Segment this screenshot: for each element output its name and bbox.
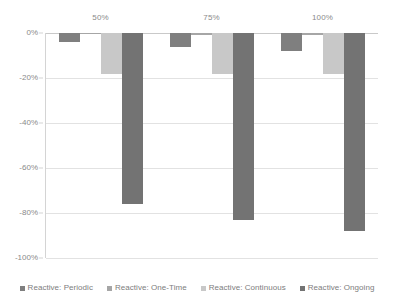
bar-slot: [212, 33, 233, 258]
bar-slot: [344, 33, 365, 258]
legend-label: Reactive: One-Time: [115, 283, 187, 293]
tick-0: [39, 33, 43, 34]
bars-layer: [46, 33, 378, 258]
bar[interactable]: [344, 33, 365, 231]
value-label-2: -40%: [19, 119, 38, 127]
bar[interactable]: [281, 33, 302, 51]
legend-label: Reactive: Ongoing: [308, 283, 375, 293]
category-label-2: 100%: [267, 10, 378, 26]
legend-swatch-icon: [201, 286, 206, 291]
legend-swatch-icon: [300, 286, 305, 291]
legend-label: Reactive: Periodic: [28, 283, 93, 293]
value-label-4: -80%: [19, 209, 38, 217]
value-label-3: -60%: [19, 164, 38, 172]
legend-swatch-icon: [20, 286, 25, 291]
bar-slot: [59, 33, 80, 258]
chart-legend: Reactive: PeriodicReactive: One-TimeReac…: [0, 280, 394, 296]
gridline-5: [46, 258, 378, 259]
legend-label: Reactive: Continuous: [209, 283, 286, 293]
tick-1: [39, 78, 43, 79]
bar-slot: [80, 33, 101, 258]
bar[interactable]: [233, 33, 254, 220]
legend-item-2[interactable]: Reactive: Continuous: [201, 283, 286, 293]
category-axis: 50%75%100%: [45, 10, 378, 26]
value-axis: 0%-20%-40%-60%-80%-100%: [0, 33, 43, 258]
bar-group-1: [157, 33, 268, 258]
category-label-0: 50%: [45, 10, 156, 26]
tick-5: [39, 258, 43, 259]
bar-slot: [281, 33, 302, 258]
bar-slot: [170, 33, 191, 258]
bar-group-0: [46, 33, 157, 258]
legend-item-0[interactable]: Reactive: Periodic: [20, 283, 93, 293]
tick-3: [39, 168, 43, 169]
bar-slot: [302, 33, 323, 258]
bar[interactable]: [122, 33, 143, 204]
bar[interactable]: [170, 33, 191, 47]
plot-area: [45, 33, 378, 258]
bar[interactable]: [80, 33, 101, 34]
bar-slot: [233, 33, 254, 258]
bar[interactable]: [101, 33, 122, 74]
bar[interactable]: [302, 33, 323, 35]
bar[interactable]: [191, 33, 212, 35]
legend-item-1[interactable]: Reactive: One-Time: [107, 283, 187, 293]
value-label-1: -20%: [19, 74, 38, 82]
category-label-1: 75%: [156, 10, 267, 26]
tick-4: [39, 213, 43, 214]
value-label-0: 0%: [26, 29, 38, 37]
value-label-5: -100%: [15, 254, 38, 262]
legend-swatch-icon: [107, 286, 112, 291]
bar[interactable]: [323, 33, 344, 74]
bar-group-2: [267, 33, 378, 258]
tick-2: [39, 123, 43, 124]
bar[interactable]: [212, 33, 233, 74]
bar-chart: 50%75%100% 0%-20%-40%-60%-80%-100% React…: [0, 0, 394, 308]
bar-slot: [191, 33, 212, 258]
bar[interactable]: [59, 33, 80, 42]
legend-item-3[interactable]: Reactive: Ongoing: [300, 283, 375, 293]
bar-slot: [323, 33, 344, 258]
bar-slot: [101, 33, 122, 258]
bar-slot: [122, 33, 143, 258]
